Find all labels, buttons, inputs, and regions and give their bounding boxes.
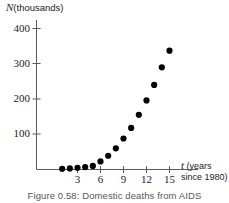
data-point: [90, 163, 96, 169]
data-point: [136, 112, 142, 118]
data-point: [97, 158, 103, 164]
y-tick-label-100: 100: [2, 127, 30, 139]
data-point: [120, 135, 126, 141]
y-tick-label-300: 300: [2, 57, 30, 69]
data-point: [143, 97, 149, 103]
x-tick-label-6: 6: [93, 173, 109, 185]
x-tick-label-12: 12: [139, 173, 155, 185]
data-point: [166, 48, 172, 54]
data-point: [113, 145, 119, 151]
y-tick-label-400: 400: [2, 22, 30, 34]
figure-caption: Figure 0.58: Domestic deaths from AIDS: [0, 190, 229, 201]
data-point: [159, 64, 165, 70]
data-point-group: [59, 48, 173, 172]
data-point: [59, 166, 65, 172]
y-tick-label-200: 200: [2, 92, 30, 104]
data-point: [105, 153, 111, 159]
data-point: [74, 165, 80, 171]
plot-area: [0, 0, 229, 203]
x-tick-label-3: 3: [70, 173, 86, 185]
data-point: [151, 82, 157, 88]
x-tick-label-15: 15: [162, 173, 178, 185]
data-point: [82, 164, 88, 170]
data-point: [128, 125, 134, 131]
figure-aids-deaths-scatter: N(thousands) t (years since 1980) 400: [0, 0, 229, 203]
x-tick-label-9: 9: [116, 173, 132, 185]
data-point: [67, 165, 73, 171]
